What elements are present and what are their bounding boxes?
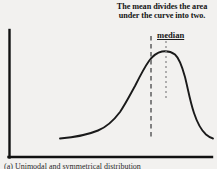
bottom-caption: (a) Unimodal and symmetrical distributio… [4, 162, 213, 169]
caption-line-2: under the curve into two. [108, 11, 216, 20]
figure-caption: The mean divides the area under the curv… [108, 2, 216, 20]
median-label: median [157, 30, 184, 40]
distribution-figure: The mean divides the area under the curv… [0, 0, 217, 169]
distribution-curve [60, 51, 213, 138]
caption-line-1: The mean divides the area [108, 2, 216, 11]
plot-canvas [0, 0, 217, 169]
